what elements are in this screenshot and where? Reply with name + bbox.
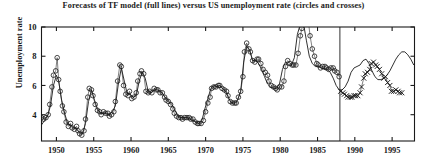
plot-frame [42, 27, 415, 141]
x-tick-label: 1965 [160, 146, 177, 155]
data-marker-circle [304, 19, 309, 24]
data-marker-cross [359, 84, 364, 89]
series-line-tf-model [42, 23, 414, 134]
data-marker-cross [385, 80, 390, 85]
x-tick-label: 1990 [346, 146, 363, 155]
data-marker-cross [365, 70, 370, 75]
data-marker-circle [337, 74, 342, 79]
y-tick-label: 4 [32, 110, 37, 120]
y-tick-label: 10 [28, 22, 37, 32]
data-marker-cross [375, 64, 380, 69]
x-tick-label: 1950 [48, 146, 65, 155]
data-marker-cross [361, 76, 366, 81]
data-marker-cross [387, 83, 392, 88]
x-tick-label: 1985 [309, 146, 326, 155]
x-tick-label: 1970 [197, 146, 214, 155]
y-tick-label: 6 [32, 81, 37, 91]
y-tick-label: 8 [32, 51, 37, 61]
data-layer [39, 14, 414, 141]
x-tick-label: 1960 [123, 146, 140, 155]
plot-canvas: 4681019501955196019651970197519801985199… [0, 0, 427, 165]
x-tick-label: 1975 [235, 146, 252, 155]
x-tick-label: 1955 [85, 146, 102, 155]
x-tick-label: 1995 [384, 146, 401, 155]
data-marker-circle [306, 20, 311, 25]
data-marker-cross [358, 90, 363, 95]
unemployment-forecast-chart: Forecasts of TF model (full lines) versu… [0, 0, 427, 165]
data-marker-circle [302, 14, 307, 19]
x-tick-label: 1980 [272, 146, 289, 155]
